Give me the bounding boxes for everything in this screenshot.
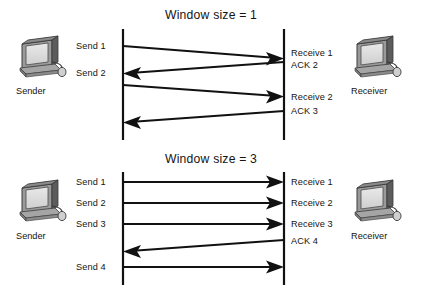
- message-arrow-send-2: [123, 85, 284, 104]
- computer-icon: [355, 180, 401, 221]
- message-label-receive-3: Receive 3: [291, 219, 333, 230]
- sender-label: Sender: [16, 231, 46, 241]
- message-label-send-1: Send 1: [76, 41, 106, 52]
- message-arrow-send-4: [123, 261, 284, 274]
- message-label-ack-4: ACK 4: [291, 236, 318, 247]
- computer-icon: [20, 36, 66, 77]
- message-arrow-send-1: [123, 176, 284, 189]
- message-label-ack-2: ACK 2: [291, 60, 318, 71]
- message-label-receive-1: Receive 1: [291, 48, 333, 59]
- diagram-canvas: Window size = 1 Sender Receiver Send 1 S…: [0, 0, 425, 299]
- message-label-send-2: Send 2: [76, 198, 106, 209]
- message-label-ack-3: ACK 3: [291, 106, 318, 117]
- message-label-receive-2: Receive 2: [291, 198, 333, 209]
- receiver-label: Receiver: [351, 231, 387, 241]
- message-label-send-4: Send 4: [76, 262, 106, 273]
- message-arrow-send-2: [123, 197, 284, 210]
- message-label-receive-1: Receive 1: [291, 177, 333, 188]
- diagram-vector-layer: [0, 0, 425, 299]
- computer-icon: [20, 180, 66, 221]
- receiver-label: Receiver: [351, 86, 387, 96]
- message-label-send-1: Send 1: [76, 177, 106, 188]
- message-arrow-send-3: [123, 218, 284, 231]
- message-arrow-ack-4: [123, 240, 284, 258]
- sender-label: Sender: [16, 86, 46, 96]
- message-arrow-ack-2: [123, 62, 284, 80]
- message-label-send-3: Send 3: [76, 219, 106, 230]
- message-label-send-2: Send 2: [76, 68, 106, 79]
- message-arrow-send-1: [123, 46, 284, 66]
- message-label-receive-2: Receive 2: [291, 92, 333, 103]
- panel-title-window-size-1: Window size = 1: [165, 8, 257, 22]
- message-arrow-ack-3: [123, 111, 284, 129]
- panel-title-window-size-3: Window size = 3: [165, 152, 257, 166]
- computer-icon: [355, 36, 401, 77]
